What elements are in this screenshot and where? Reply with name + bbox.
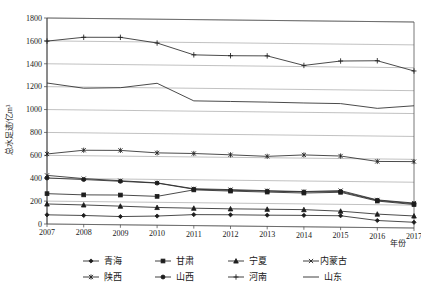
x-tick-label: 2016	[369, 232, 385, 241]
x-tick-label: 2012	[223, 230, 239, 239]
legend-label-宁夏: 宁夏	[249, 255, 267, 266]
x-axis-title: 年份	[390, 238, 406, 248]
x-tick-label: 2011	[186, 230, 202, 239]
legend-label-河南: 河南	[249, 271, 267, 282]
x-tick-label: 2013	[259, 230, 275, 239]
data-point-circle	[82, 178, 86, 182]
data-point-circle	[302, 190, 306, 194]
y-tick-label: 1800	[26, 14, 42, 23]
legend-label-内蒙古: 内蒙古	[320, 255, 347, 266]
legend-label-青海: 青海	[104, 255, 122, 266]
x-tick-label: 2009	[112, 229, 128, 238]
data-point-circle	[45, 176, 49, 180]
y-tick-label: 1600	[26, 37, 42, 46]
line-chart-figure: 020040060080010001200140016001800 200720…	[0, 0, 421, 295]
x-tick-label: 2007	[39, 228, 55, 237]
legend-label-山东: 山东	[324, 271, 342, 282]
x-tick-label: 2015	[333, 231, 349, 240]
x-tick-label: 2010	[149, 229, 165, 238]
y-tick-label: 1400	[26, 60, 42, 69]
data-point-square	[155, 194, 159, 198]
y-tick-label: 1000	[26, 105, 42, 114]
data-point-circle	[265, 189, 269, 193]
y-tick-label: 800	[30, 128, 42, 137]
data-point-circle	[375, 198, 379, 202]
y-tick-label: 400	[30, 174, 42, 183]
x-tick-label: 2008	[76, 228, 92, 237]
y-tick-label: 1200	[26, 82, 42, 91]
data-point-circle	[161, 275, 165, 279]
data-point-square	[119, 193, 123, 197]
data-point-circle	[229, 188, 233, 192]
data-point-circle	[412, 202, 416, 206]
y-tick-label: 200	[30, 197, 42, 206]
x-tick-label: 2017	[406, 232, 421, 241]
data-point-circle	[339, 189, 343, 193]
data-point-circle	[155, 181, 159, 185]
legend-label-陕西: 陕西	[104, 271, 122, 282]
data-point-circle	[192, 187, 196, 191]
y-axis-title: 总水足迹/亿m³	[4, 104, 14, 155]
chart-container: 020040060080010001200140016001800 200720…	[0, 0, 421, 295]
legend-label-甘肃: 甘肃	[176, 255, 194, 266]
y-tick-label: 600	[30, 151, 42, 160]
data-point-circle	[118, 179, 122, 183]
x-tick-label: 2014	[296, 231, 312, 240]
data-point-square	[82, 193, 86, 197]
data-point-square	[161, 259, 165, 263]
data-point-square	[45, 192, 49, 196]
legend-label-山西: 山西	[176, 272, 194, 282]
